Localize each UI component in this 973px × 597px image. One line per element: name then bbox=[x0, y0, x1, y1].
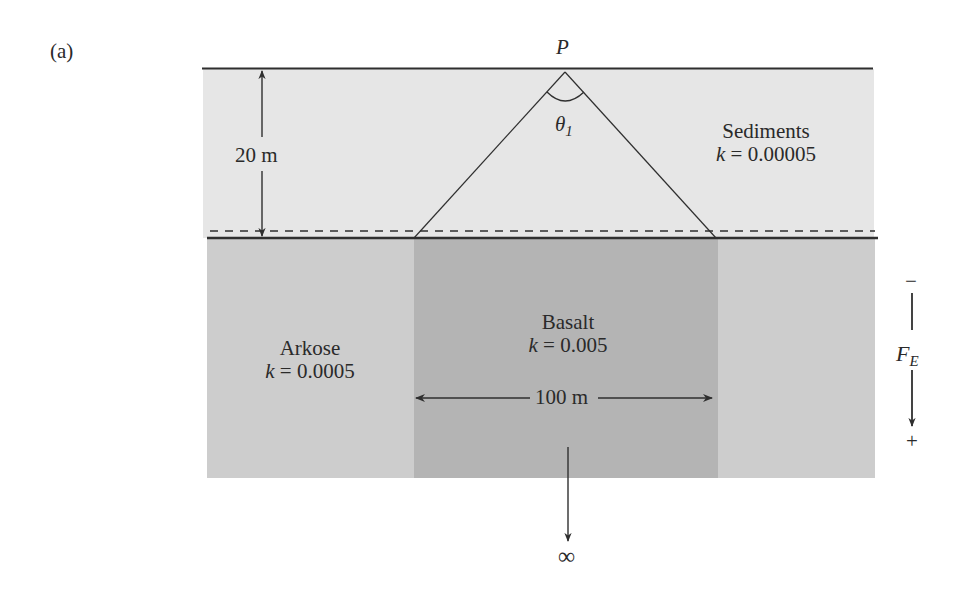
field-subscript: E bbox=[909, 353, 918, 369]
sediments-label: Sediments k = 0.00005 bbox=[706, 120, 826, 166]
basalt-name: Basalt bbox=[508, 311, 628, 334]
angle-subscript: 1 bbox=[565, 123, 573, 139]
k-value: = 0.00005 bbox=[731, 142, 816, 166]
infinity-label: ∞ bbox=[558, 545, 575, 568]
k-symbol: k bbox=[716, 142, 725, 166]
k-value: = 0.0005 bbox=[280, 359, 355, 383]
basalt-label: Basalt k = 0.005 bbox=[508, 311, 628, 357]
angle-label: θ1 bbox=[555, 113, 573, 143]
field-symbol: F bbox=[896, 341, 909, 366]
k-value: = 0.005 bbox=[543, 333, 607, 357]
basalt-k: k = 0.005 bbox=[508, 334, 628, 357]
depth-dimension-label: 20 m bbox=[233, 144, 280, 167]
field-axis-label: FE bbox=[896, 342, 919, 373]
sediments-name: Sediments bbox=[706, 120, 826, 143]
arkose-name: Arkose bbox=[250, 337, 370, 360]
point-label: P bbox=[556, 36, 569, 59]
field-axis-plus: + bbox=[906, 430, 918, 453]
width-dimension-label: 100 m bbox=[535, 386, 588, 409]
arkose-k: k = 0.0005 bbox=[250, 360, 370, 383]
diagram-canvas bbox=[0, 0, 973, 597]
basalt-body bbox=[414, 239, 718, 478]
k-symbol: k bbox=[529, 333, 538, 357]
panel-label: (a) bbox=[50, 40, 73, 63]
angle-symbol: θ bbox=[555, 112, 565, 136]
field-axis-minus: − bbox=[905, 270, 917, 293]
k-symbol: k bbox=[265, 359, 274, 383]
sediments-k: k = 0.00005 bbox=[706, 143, 826, 166]
arkose-label: Arkose k = 0.0005 bbox=[250, 337, 370, 383]
